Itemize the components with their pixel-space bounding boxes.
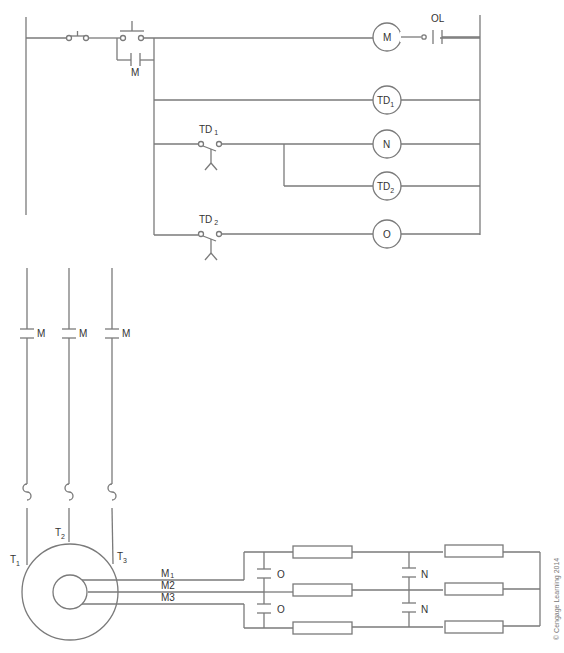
rotor-lead-M2-label: M [161,580,169,591]
svg-text:M3: M3 [161,592,175,603]
resistor-icon [445,621,503,633]
seal-in-contact-M-icon [117,53,154,66]
svg-text:TD2: TD2 [199,214,218,226]
contact-O1-label: O [277,569,285,580]
shorting-contact-O-icon [257,552,271,628]
timed-contact-TD1-icon [199,142,222,171]
stop-pushbutton-icon [67,31,89,41]
td1-contact-label: TD [199,124,212,135]
rung-3: TD1 N [154,124,480,170]
overload-contact-icon [400,30,480,44]
line-1 [20,268,34,565]
td2-coil-label: TD [377,181,390,192]
resistor-icon [293,622,352,634]
line-contact-M3-label: M [122,328,130,339]
overload-heater-icon [23,484,31,500]
contact-O2-label: O [277,604,285,615]
td2-contact-label: TD [199,214,212,225]
start-pushbutton-icon [120,21,144,41]
coil-M-label: M [383,32,391,43]
resistor-icon [445,583,503,595]
overload-heater-icon [108,484,116,500]
secondary-resistor-network: O O N N [244,545,540,634]
svg-text:T2: T2 [55,527,65,540]
rung-2: TD1 [154,86,480,114]
rotor-lead-M1-label: M [161,568,169,579]
contact-N1-label: N [421,569,428,580]
resistor-icon [293,546,352,558]
td1-coil-label: TD [377,95,390,106]
timed-contact-TD2-icon [199,232,222,261]
svg-text:T3: T3 [117,551,127,564]
resistor-icon [445,545,503,557]
rung-5: TD2 O [154,214,480,260]
line-contact-M1-label: M [37,328,45,339]
control-ladder: M M OL TD1 [26,13,480,260]
svg-text:M2: M2 [161,580,175,591]
copyright-credit: © Cengage Learning 2014 [553,558,561,640]
svg-text:T1: T1 [10,554,20,567]
svg-text:M1: M1 [161,568,174,579]
rung-1: M M OL [26,13,480,235]
rotor-lead-M3-label: M [161,592,169,603]
line-contact-M2-label: M [79,328,87,339]
wound-rotor-motor-control-diagram: M M OL TD1 [0,0,564,653]
svg-text:TD1: TD1 [199,124,218,136]
coil-O-label: O [383,229,391,240]
overload-label: OL [431,13,445,24]
seal-contact-label: M [131,67,139,78]
coil-N-label: N [383,139,390,150]
line-3 [105,268,119,564]
resistor-icon [293,584,352,596]
power-circuit: M M M T1 T2 T3 [10,268,540,640]
overload-heater-icon [65,484,73,500]
contact-N2-label: N [421,604,428,615]
line-2 [62,268,76,542]
